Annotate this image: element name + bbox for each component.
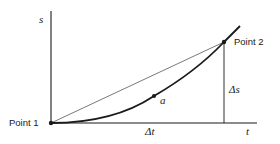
secant-line — [51, 42, 224, 123]
trajectory-curve — [51, 26, 240, 123]
point-a-label: a — [160, 95, 166, 106]
point1-dot — [49, 121, 53, 125]
point2-dot — [222, 40, 226, 44]
point1-label: Point 1 — [9, 118, 39, 128]
point2-label: Point 2 — [234, 37, 264, 47]
delta-t-label: Δt — [145, 126, 155, 137]
t-axis-label: t — [246, 126, 249, 137]
s-axis-label: s — [39, 14, 43, 25]
point-a-dot — [152, 94, 156, 98]
delta-s-label: Δs — [229, 84, 240, 95]
